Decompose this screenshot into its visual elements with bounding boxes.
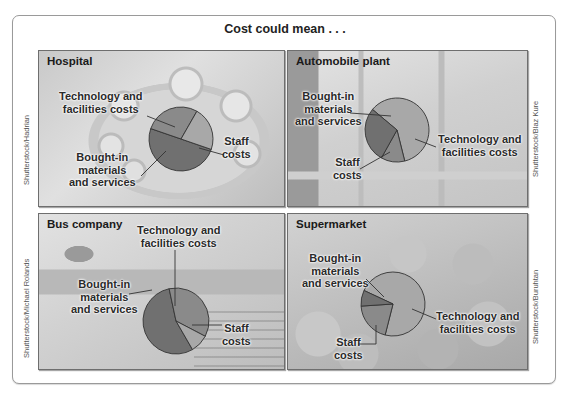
- leader-line-automobile-staff: [360, 152, 390, 169]
- leader-line-hospital-bought-in: [141, 151, 166, 176]
- leader-line-automobile-bought-in: [350, 113, 391, 116]
- figure-title: Cost could mean . . .: [0, 22, 570, 36]
- leader-line-supermarket-technology: [412, 309, 436, 319]
- panel-supermarket: Supermarket Bought-in materials and serv…: [287, 213, 528, 370]
- photo-credit-supermarket: Shutterstock/Buruhtan: [531, 270, 540, 344]
- leaders-automobile: [288, 51, 527, 206]
- leaders-hospital: [39, 51, 284, 206]
- leaders-bus: [39, 214, 284, 369]
- leader-line-supermarket-bought-in: [366, 279, 384, 297]
- panel-hospital: Hospital Technology and facilities costs…: [38, 50, 285, 207]
- panel-bus-company: Bus company Technology and facilities co…: [38, 213, 285, 370]
- leaders-supermarket: [288, 214, 527, 369]
- panel-automobile-plant: Automobile plant Bought-in materials and…: [287, 50, 528, 207]
- leader-line-automobile-technology: [415, 139, 436, 147]
- photo-credit-hospital: Shutterstock/Hadrian: [22, 115, 31, 185]
- photo-credit-bus-company: Shutterstock/Michael Rolands: [22, 259, 31, 358]
- leader-line-bus-bought-in: [129, 290, 152, 294]
- photo-credit-automobile-plant: Shutterstock/Blaz Kure: [531, 101, 540, 177]
- leader-line-hospital-technology: [147, 116, 175, 127]
- leader-line-hospital-staff: [199, 148, 224, 155]
